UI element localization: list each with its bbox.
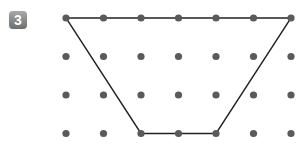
grid-dot (100, 14, 107, 21)
grid-dot (100, 130, 107, 137)
grid-dot (287, 91, 294, 98)
trapezoid-shape (66, 18, 291, 134)
grid-dot (100, 53, 107, 60)
grid-dot (175, 130, 182, 137)
grid-dot (250, 14, 257, 21)
grid-dot (137, 91, 144, 98)
grid-dot (250, 91, 257, 98)
grid-dot (137, 53, 144, 60)
grid-dot (175, 14, 182, 21)
grid-dot (137, 130, 144, 137)
grid-dot (137, 14, 144, 21)
grid-dot (62, 130, 69, 137)
grid-dots (62, 14, 294, 137)
grid-dot (287, 53, 294, 60)
grid-dot (62, 53, 69, 60)
grid-dot (62, 91, 69, 98)
grid-dot (287, 14, 294, 21)
grid-dot (212, 53, 219, 60)
grid-dot (100, 91, 107, 98)
grid-dot (212, 14, 219, 21)
dot-grid-diagram (0, 0, 305, 153)
grid-dot (250, 130, 257, 137)
grid-dot (175, 53, 182, 60)
grid-dot (287, 130, 294, 137)
grid-dot (62, 14, 69, 21)
grid-dot (212, 130, 219, 137)
grid-dot (250, 53, 257, 60)
grid-dot (212, 91, 219, 98)
grid-dot (175, 91, 182, 98)
